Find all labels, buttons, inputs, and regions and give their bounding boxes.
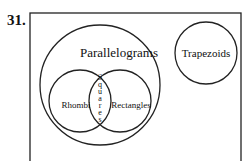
venn-diagram: Parallelograms Rhombi Rectangles Trapezo… bbox=[0, 0, 252, 161]
squares-label: S q u a r e s bbox=[98, 73, 102, 124]
parallelograms-label: Parallelograms bbox=[80, 45, 158, 60]
universal-set-box bbox=[30, 13, 241, 161]
svg-text:s: s bbox=[98, 115, 101, 124]
trapezoids-label: Trapezoids bbox=[182, 47, 230, 59]
rhombi-label: Rhombi bbox=[61, 100, 91, 110]
rectangles-label: Rectangles bbox=[111, 100, 151, 110]
